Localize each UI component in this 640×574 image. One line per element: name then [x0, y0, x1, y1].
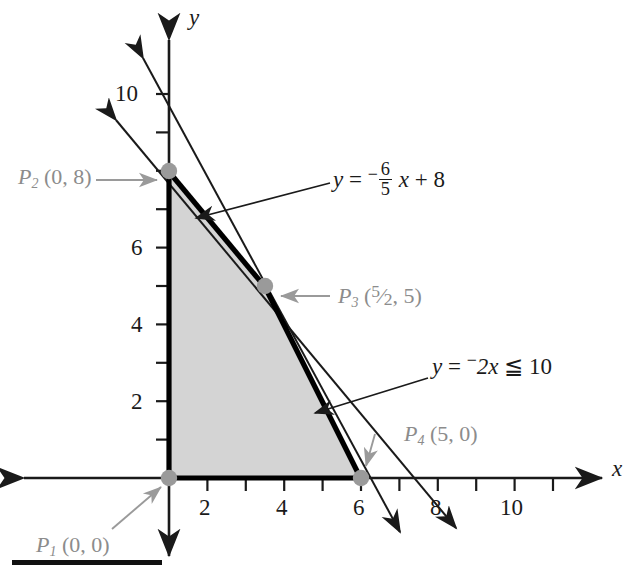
equation-label-1: y = −65 x + 8: [333, 160, 445, 199]
point-label-p2-sub: 2: [31, 176, 38, 191]
p3-frac-numerator: 5: [371, 281, 380, 301]
point-marker-p4: [353, 470, 369, 486]
point-label-p4-name: P: [404, 421, 417, 446]
eq1-variable: x: [399, 167, 409, 192]
callout-arrow-eq2: [315, 378, 428, 413]
point-label-p2-name: P: [18, 164, 31, 189]
x-tick-label-2: 2: [199, 496, 211, 519]
y-tick-label-6: 6: [131, 236, 143, 259]
point-label-p4: P4 (5, 0): [404, 423, 478, 448]
x-tick-label-10: 10: [500, 496, 523, 519]
point-label-p3-coords: (5⁄2, 5): [364, 283, 422, 308]
point-label-p3: P3 (5⁄2, 5): [338, 283, 422, 310]
y-tick-label-4: 4: [131, 313, 143, 336]
eq2-equals: =: [448, 354, 461, 379]
point-label-p4-sub: 4: [417, 433, 424, 448]
x-tick-label-8: 8: [430, 496, 442, 519]
eq1-fraction-numerator: 6: [379, 160, 392, 179]
point-marker-p1: [161, 470, 177, 486]
point-label-p3-name: P: [338, 283, 351, 308]
p3-frac-denominator: 2: [384, 289, 393, 309]
point-label-p1-name: P: [36, 532, 49, 557]
point-marker-p2: [161, 163, 177, 179]
eq1-fraction: 65: [379, 160, 392, 199]
eq2-lhs: y: [432, 354, 442, 379]
x-tick-label-4: 4: [276, 496, 288, 519]
point-label-p2: P2 (0, 8): [18, 166, 92, 191]
eq2-relation-symbol: ≦: [504, 354, 523, 379]
callout-arrow-p4: [366, 434, 375, 466]
y-tick-label-10: 10: [115, 82, 138, 105]
x-tick-label-6: 6: [353, 496, 365, 519]
point-marker-p3: [257, 278, 273, 294]
eq2-negative-sign: −: [467, 350, 477, 370]
eq1-constant: 8: [433, 167, 445, 192]
callout-arrow-eq1: [196, 183, 330, 218]
point-label-p1-sub: 1: [49, 544, 56, 559]
point-label-p2-coords: (0, 8): [44, 164, 92, 189]
graph-figure: y x 2 4 6 8 10 2 4 6 10 P2 (0, 8) P3 (5⁄…: [0, 0, 640, 574]
callout-arrow-p1: [112, 487, 161, 529]
x-axis-label: x: [612, 457, 622, 480]
caption-rule: [12, 560, 162, 565]
eq1-plus: +: [415, 167, 428, 192]
equation-label-2: y = −2x ≦ 10: [432, 352, 552, 378]
eq2-coefficient-variable: 2x: [477, 354, 499, 379]
eq2-rhs: 10: [529, 354, 552, 379]
eq1-negative-sign: −: [368, 164, 378, 184]
eq1-fraction-denominator: 5: [379, 179, 392, 199]
point-label-p1: P1 (0, 0): [36, 534, 110, 559]
eq1-lhs: y: [333, 167, 343, 192]
plot-canvas: [0, 0, 640, 574]
y-axis-label: y: [189, 6, 199, 29]
point-label-p4-coords: (5, 0): [430, 421, 478, 446]
eq1-equals: =: [349, 167, 362, 192]
point-label-p1-coords: (0, 0): [62, 532, 110, 557]
point-label-p3-sub: 3: [351, 295, 358, 310]
y-tick-label-2: 2: [131, 390, 143, 413]
